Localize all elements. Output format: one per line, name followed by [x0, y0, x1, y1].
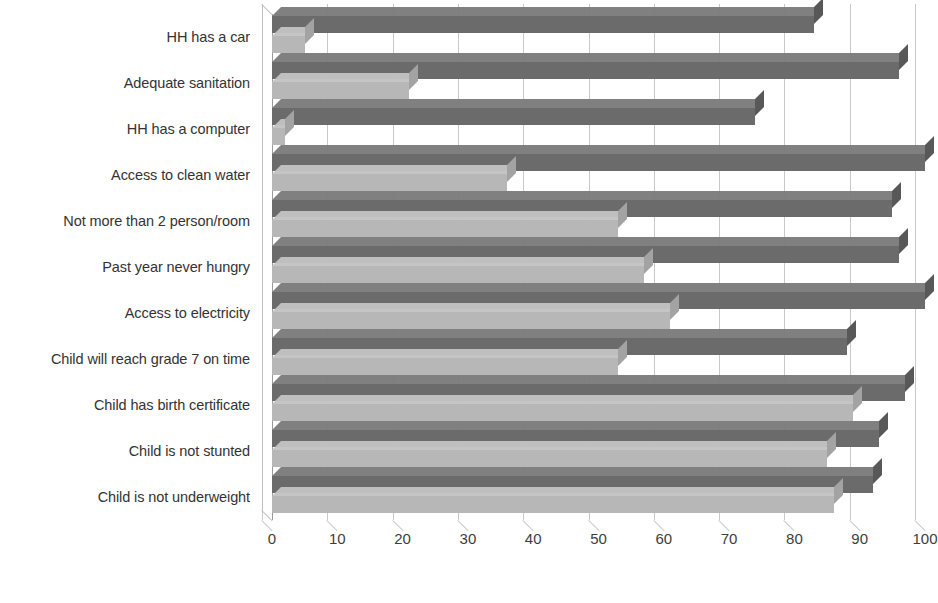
x-axis-tick-label: 40	[525, 530, 542, 547]
x-axis-tick-label: 0	[268, 530, 276, 547]
bar-top	[272, 191, 901, 200]
bar-top	[272, 73, 418, 82]
bar-series-light	[272, 82, 409, 99]
category-label: Child is not underweight	[0, 474, 258, 520]
bar-face	[272, 358, 618, 375]
bar-top	[272, 145, 934, 154]
bar-top	[272, 165, 516, 174]
x-axis-tick-label: 50	[590, 530, 607, 547]
bar-series-light	[272, 128, 285, 145]
bar-side	[925, 136, 934, 162]
category-label: Not more than 2 person/room	[0, 198, 258, 244]
category-label: Access to electricity	[0, 290, 258, 336]
bar-top	[272, 283, 934, 292]
plot-area	[272, 14, 925, 520]
y-axis-line-back	[262, 4, 263, 510]
x-axis-tick-label: 70	[721, 530, 738, 547]
bar-series-light	[272, 450, 827, 467]
category-label: Adequate sanitation	[0, 60, 258, 106]
bar-face	[272, 174, 507, 191]
category-label: HH has a car	[0, 14, 258, 60]
bar-top	[272, 303, 679, 312]
bar-face	[272, 496, 834, 513]
bar-series-light	[272, 404, 853, 421]
bar-side	[814, 0, 823, 24]
bar-face	[272, 36, 305, 53]
category-axis-labels: HH has a carAdequate sanitationHH has a …	[0, 14, 258, 520]
bar-face	[272, 266, 644, 283]
bar-top	[272, 441, 836, 450]
bar-series-light	[272, 174, 507, 191]
bar-top	[272, 329, 856, 338]
bar-series-light	[272, 266, 644, 283]
category-label: HH has a computer	[0, 106, 258, 152]
bar-face	[272, 220, 618, 237]
category-label: Access to clean water	[0, 152, 258, 198]
bar-top	[272, 211, 627, 220]
bar-face	[272, 450, 827, 467]
x-axis-tick-label: 10	[329, 530, 346, 547]
x-axis-tick-label: 60	[655, 530, 672, 547]
bar-series-light	[272, 36, 305, 53]
category-label: Child has birth certificate	[0, 382, 258, 428]
bar-face	[272, 312, 670, 329]
bar-face	[272, 128, 285, 145]
bar-top	[272, 53, 908, 62]
bar-top	[272, 257, 653, 266]
bar-top	[272, 7, 823, 16]
bar-top	[272, 99, 764, 108]
bar-side	[925, 274, 934, 300]
x-axis-tick-label: 90	[851, 530, 868, 547]
bar-series-light	[272, 358, 618, 375]
value-axis-labels: 0102030405060708090100	[0, 530, 938, 560]
bar-top	[272, 237, 908, 246]
x-axis-tick-label: 80	[786, 530, 803, 547]
bar-row	[272, 474, 925, 520]
bar-top	[272, 395, 862, 404]
category-label: Past year never hungry	[0, 244, 258, 290]
bar-rows	[272, 14, 925, 520]
bar-face	[272, 16, 814, 33]
bar-series-light	[272, 220, 618, 237]
bar-top	[272, 349, 627, 358]
bar-face	[272, 108, 755, 125]
bar-chart: HH has a carAdequate sanitationHH has a …	[0, 0, 938, 603]
bar-top	[272, 467, 882, 476]
x-axis-tick-label: 30	[460, 530, 477, 547]
category-label: Child will reach grade 7 on time	[0, 336, 258, 382]
bar-series-light	[272, 312, 670, 329]
x-axis-tick-label: 20	[394, 530, 411, 547]
bar-series-dark	[272, 16, 814, 33]
bar-series-light	[272, 496, 834, 513]
bar-face	[272, 82, 409, 99]
bar-face	[272, 404, 853, 421]
bar-top	[272, 421, 888, 430]
bar-top	[272, 487, 843, 496]
x-axis-tick-label: 100	[912, 530, 937, 547]
bar-top	[272, 375, 914, 384]
bar-series-dark	[272, 108, 755, 125]
category-label: Child is not stunted	[0, 428, 258, 474]
